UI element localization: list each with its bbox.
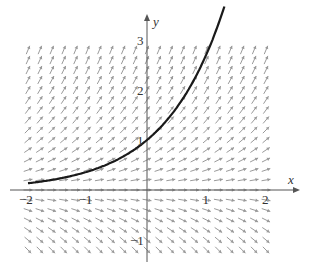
x-axis-arrowhead-icon [293, 187, 300, 193]
x-tick-label: 2 [262, 192, 269, 207]
x-tick-label: −2 [19, 192, 33, 207]
x-tick-label: 1 [203, 192, 210, 207]
y-axis-arrowhead-icon [144, 14, 150, 21]
x-axis-label: x [287, 172, 294, 187]
y-tick-label: 1 [137, 133, 144, 148]
y-tick-label: 3 [137, 33, 144, 48]
y-tick-label: −1 [130, 233, 144, 248]
solution-curve [28, 7, 224, 184]
y-axis-label: y [151, 14, 159, 29]
y-tick-label: 2 [137, 83, 144, 98]
x-tick-label: −1 [79, 192, 93, 207]
slope-field-chart: x y −2−112−1123 [0, 0, 309, 270]
tick-labels: −2−112−1123 [19, 33, 269, 248]
